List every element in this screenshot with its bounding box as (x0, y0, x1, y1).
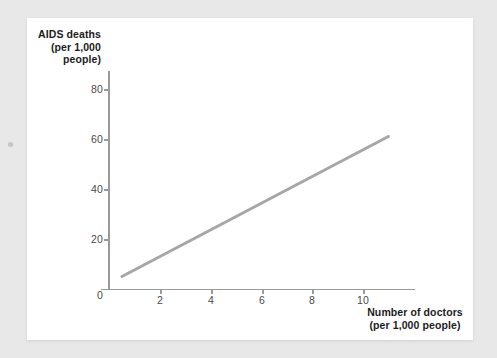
plot-area (27, 18, 473, 340)
x-axis-title: Number of doctors (per 1,000 people) (357, 306, 473, 331)
chart-card: AIDS deaths (per 1,000 people) 80 60 40 … (27, 18, 473, 340)
x-axis-title-line-2: (per 1,000 people) (357, 319, 473, 332)
trend-line (122, 137, 388, 277)
x-axis-title-line-1: Number of doctors (357, 306, 473, 319)
scatter-line-figure: AIDS deaths (per 1,000 people) 80 60 40 … (27, 18, 473, 340)
page-speck-artifact (8, 142, 13, 147)
